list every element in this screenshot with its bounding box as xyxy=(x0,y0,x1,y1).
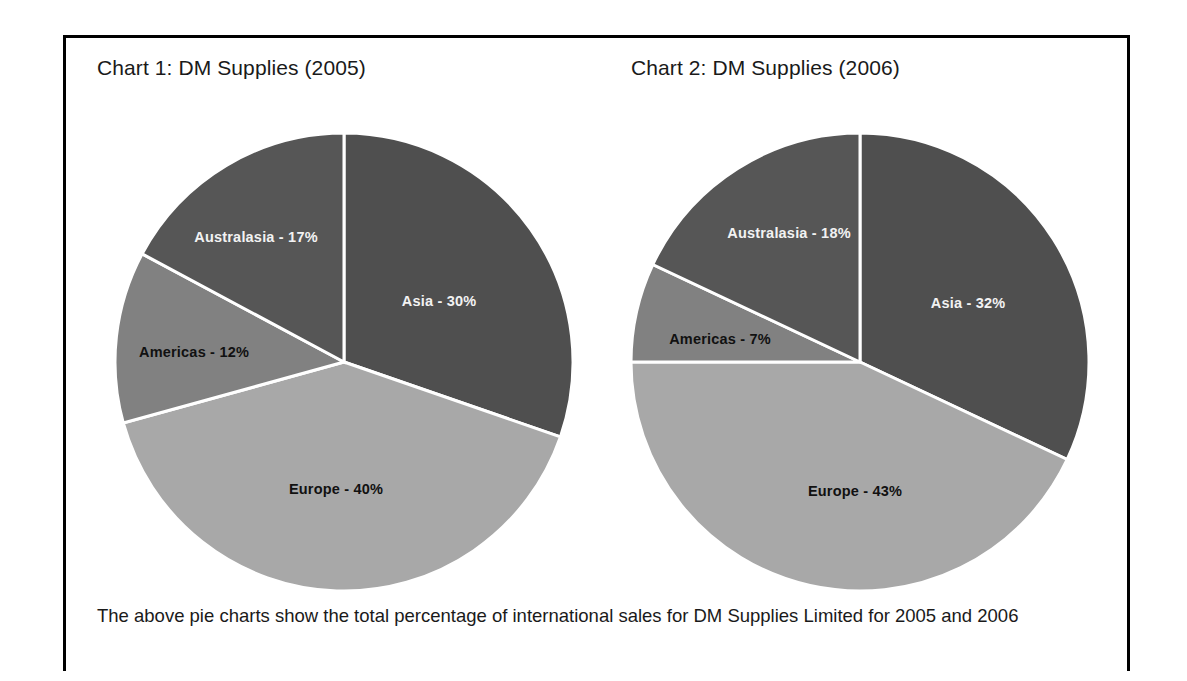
pie-chart-2005: Asia - 30%Europe - 40%Americas - 12%Aust… xyxy=(109,127,579,601)
pie-chart-2005-svg: Asia - 30%Europe - 40%Americas - 12%Aust… xyxy=(109,127,579,597)
figure-caption: The above pie charts show the total perc… xyxy=(97,603,1097,629)
pie-slice-label-asia: Asia - 32% xyxy=(931,295,1006,311)
pie-slice-label-europe: Europe - 43% xyxy=(808,483,902,499)
pie-slice-label-americas: Americas - 7% xyxy=(669,331,771,347)
pie-slice-label-australasia: Australasia - 17% xyxy=(194,229,318,245)
pie-chart-2006: Asia - 32%Europe - 43%Americas - 7%Austr… xyxy=(625,127,1095,601)
pie-chart-2006-svg: Asia - 32%Europe - 43%Americas - 7%Austr… xyxy=(625,127,1095,597)
pie-slice-label-europe: Europe - 40% xyxy=(289,481,383,497)
pie-slice-label-asia: Asia - 30% xyxy=(402,293,477,309)
pie-slice-label-australasia: Australasia - 18% xyxy=(727,225,851,241)
pie-slices-2006 xyxy=(631,133,1089,591)
pie-slices-2005 xyxy=(115,133,573,591)
pie-slice-label-americas: Americas - 12% xyxy=(139,344,249,360)
chart-2-title: Chart 2: DM Supplies (2006) xyxy=(631,56,900,80)
chart-1-title: Chart 1: DM Supplies (2005) xyxy=(97,56,366,80)
figure-frame: Chart 1: DM Supplies (2005) Chart 2: DM … xyxy=(63,35,1130,671)
